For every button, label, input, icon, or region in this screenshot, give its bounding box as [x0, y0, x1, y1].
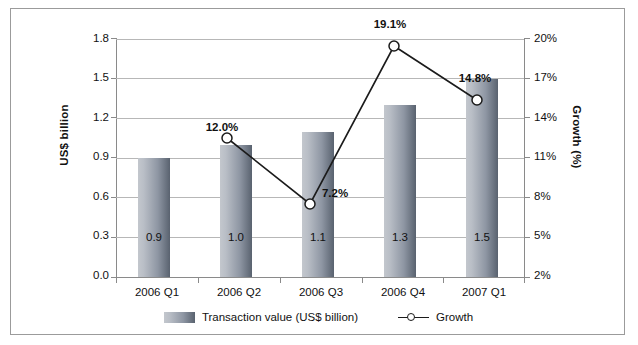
bar-value-label: 1.0	[220, 231, 252, 243]
y2-tick-label: 8%	[534, 191, 574, 203]
growth-value-label: 14.8%	[445, 72, 505, 84]
bar-2006-q3[interactable]	[302, 132, 334, 277]
bar-2006-q4[interactable]	[384, 105, 416, 277]
bar-2007-q1[interactable]	[466, 79, 498, 277]
bar-value-label: 1.3	[384, 231, 416, 243]
x-tick-label-2006-q3: 2006 Q3	[276, 286, 366, 298]
legend-line-marker-icon	[398, 312, 429, 323]
legend-item-growth[interactable]: Growth	[398, 311, 473, 323]
gridline	[116, 118, 524, 119]
x-axis-line	[116, 277, 525, 278]
legend-bar-swatch-icon	[164, 312, 195, 323]
y-tick-label: 0.6	[73, 191, 109, 203]
y-tick-label: 1.5	[73, 72, 109, 84]
y2-tick-label: 5%	[534, 230, 574, 242]
y-tick-label: 0.9	[73, 151, 109, 163]
x-tick-label-2006-q4: 2006 Q4	[358, 286, 448, 298]
y-axis-left-title: US$ billion	[58, 75, 70, 195]
legend-label: Transaction value (US$ billion)	[202, 311, 358, 323]
legend-item-transaction-value[interactable]: Transaction value (US$ billion)	[164, 311, 358, 323]
y-axis-right-line	[524, 38, 525, 278]
y2-tick-label: 20%	[534, 33, 574, 45]
y-tick-label: 1.2	[73, 112, 109, 124]
gridline	[116, 39, 524, 40]
chart-legend: Transaction value (US$ billion) Growth	[11, 311, 626, 323]
growth-value-label: 12.0%	[192, 121, 252, 133]
bar-2006-q2[interactable]	[220, 145, 252, 277]
y-tick-label: 0.3	[73, 230, 109, 242]
bar-2006-q1[interactable]	[138, 158, 170, 277]
y2-tick-label: 2%	[534, 270, 574, 282]
y2-tick-label: 17%	[534, 72, 574, 84]
y-tick-label: 0.0	[73, 270, 109, 282]
growth-value-label: 7.2%	[305, 187, 365, 199]
x-tick-label-2006-q2: 2006 Q2	[194, 286, 284, 298]
x-tick-label-2007-q1: 2007 Q1	[439, 286, 529, 298]
x-tick-label-2006-q1: 2006 Q1	[112, 286, 202, 298]
growth-value-label: 19.1%	[360, 18, 420, 30]
y2-tick-label: 14%	[534, 112, 574, 124]
chart-frame: 1.8 1.5 1.2 0.9 0.6 0.3 0.0 20% 17% 14% …	[10, 8, 625, 335]
legend-label: Growth	[436, 311, 473, 323]
bar-value-label: 1.5	[466, 231, 498, 243]
y-axis-right-title: Growth (%)	[571, 77, 583, 197]
y-tick-label: 1.8	[73, 33, 109, 45]
bar-value-label: 0.9	[138, 231, 170, 243]
bar-value-label: 1.1	[302, 231, 334, 243]
y2-tick-label: 11%	[534, 151, 574, 163]
